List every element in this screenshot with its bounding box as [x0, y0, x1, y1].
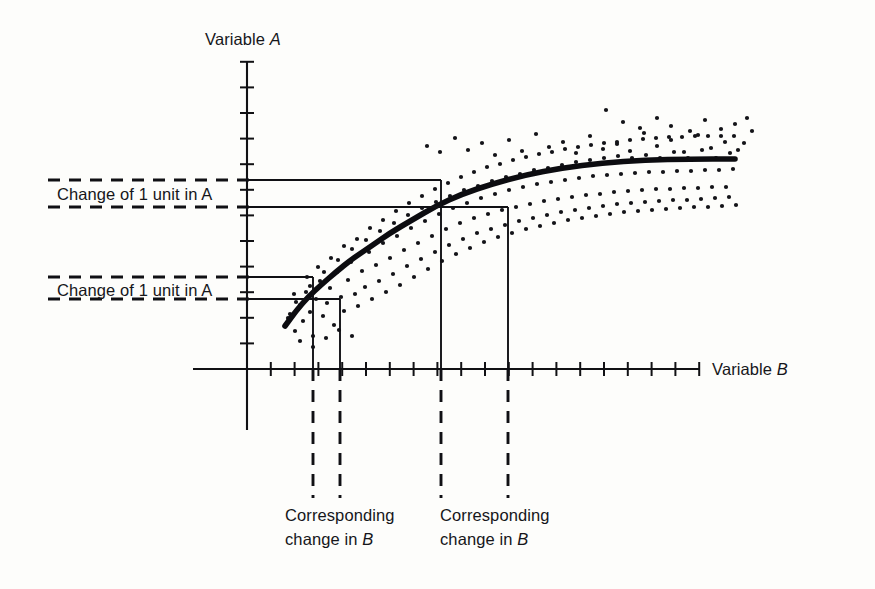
scatter-point	[332, 323, 336, 327]
scatter-point	[678, 206, 682, 210]
figure-canvas: Variable A Variable B Change of 1 unit i…	[0, 0, 875, 589]
scatter-point	[622, 210, 626, 214]
scatter-point	[542, 199, 546, 203]
scatter-point	[654, 136, 658, 140]
scatter-point	[453, 136, 457, 140]
scatter-point	[710, 185, 714, 189]
scatter-point	[682, 150, 686, 154]
scatter-point	[584, 193, 588, 197]
scatter-point	[619, 172, 623, 176]
scatter-point	[360, 269, 364, 273]
scatter-point	[356, 304, 360, 308]
scatter-point	[604, 108, 608, 112]
scatter-point	[524, 155, 528, 159]
scatter-point	[381, 218, 385, 222]
scatter-point	[384, 290, 388, 294]
scatter-point	[346, 278, 350, 282]
scatter-point	[304, 290, 308, 294]
scatter-point	[693, 134, 697, 138]
scatter-point	[479, 196, 483, 200]
scatter-point	[485, 165, 489, 169]
scatter-point	[563, 147, 567, 151]
scatter-point	[468, 246, 472, 250]
scatter-point	[466, 148, 470, 152]
scatter-point	[465, 201, 469, 205]
scatter-point	[626, 189, 630, 193]
scatter-point	[486, 212, 490, 216]
scatter-point	[549, 180, 553, 184]
scatter-point	[388, 256, 392, 260]
scatter-point	[336, 258, 340, 262]
scatter-point	[377, 279, 381, 283]
scatter-point	[727, 195, 731, 199]
scatter-point	[685, 198, 689, 202]
scatter-point	[641, 137, 645, 141]
scatter-point	[680, 135, 684, 139]
scatter-point	[447, 243, 451, 247]
scatter-point	[503, 223, 507, 227]
scatter-point	[657, 199, 661, 203]
scatter-point	[636, 209, 640, 213]
scatter-point	[419, 257, 423, 261]
scatter-point	[308, 284, 312, 288]
scatter-point	[308, 310, 312, 314]
scatter-point	[580, 216, 584, 220]
scatter-point	[496, 235, 500, 239]
scatter-point	[728, 151, 732, 155]
scatter-point	[661, 170, 665, 174]
scatter-point	[298, 339, 302, 343]
scatter-point	[589, 143, 593, 147]
scatter-point	[355, 237, 359, 241]
scatter-point	[547, 145, 551, 149]
scatter-point	[602, 156, 606, 160]
scatter-point	[615, 140, 619, 144]
scatter-point	[328, 286, 332, 290]
scatter-point	[301, 319, 305, 323]
scatter-point	[537, 152, 541, 156]
scatter-point	[433, 250, 437, 254]
change-b-left-variable: B	[362, 530, 373, 548]
scatter-point	[472, 170, 476, 174]
scatter-point	[573, 208, 577, 212]
scatter-point	[750, 129, 754, 133]
scatter-point	[733, 122, 737, 126]
scatter-point	[342, 309, 346, 313]
scatter-point	[672, 150, 676, 154]
scatter-point	[655, 144, 659, 148]
scatter-point	[713, 196, 717, 200]
scatter-point	[374, 263, 378, 267]
scatter-point	[602, 141, 606, 145]
scatter-point	[563, 178, 567, 182]
scatter-point	[363, 285, 367, 289]
scatter-point	[643, 200, 647, 204]
scatter-point	[647, 170, 651, 174]
scatter-point	[294, 300, 298, 304]
scatter-point	[329, 256, 333, 260]
scatter-point	[370, 297, 374, 301]
scatter-point	[689, 169, 693, 173]
scatter-point	[482, 240, 486, 244]
scatter-point	[615, 202, 619, 206]
y-axis-label-variable: A	[269, 30, 281, 48]
annotation-change-b-right-line1: Corresponding	[440, 506, 550, 524]
scatter-point	[406, 213, 410, 217]
scatter-point	[720, 204, 724, 208]
scatter-point	[668, 187, 672, 191]
scatter-point	[507, 138, 511, 142]
scatter-point	[628, 149, 632, 153]
x-axis-label: Variable B	[712, 360, 788, 378]
annotation-change-a-upper: Change of 1 unit in A	[57, 185, 212, 203]
scatter-point	[353, 292, 357, 296]
scatter-point	[601, 204, 605, 208]
scatter-point	[405, 264, 409, 268]
scatter-point	[699, 197, 703, 201]
scatter-point	[587, 206, 591, 210]
scatter-point	[588, 158, 592, 162]
scatter-point	[566, 218, 570, 222]
scatter-point	[556, 197, 560, 201]
scatter-point	[616, 154, 620, 158]
scatter-point	[433, 187, 437, 191]
scatter-point	[454, 252, 458, 256]
scatter-point	[350, 247, 354, 251]
scatter-point	[293, 329, 297, 333]
